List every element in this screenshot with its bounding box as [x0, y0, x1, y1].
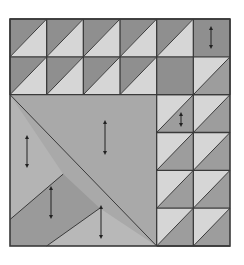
solid-square: [193, 19, 230, 57]
solid-square: [157, 57, 194, 95]
quilt-diagram: [0, 0, 244, 265]
